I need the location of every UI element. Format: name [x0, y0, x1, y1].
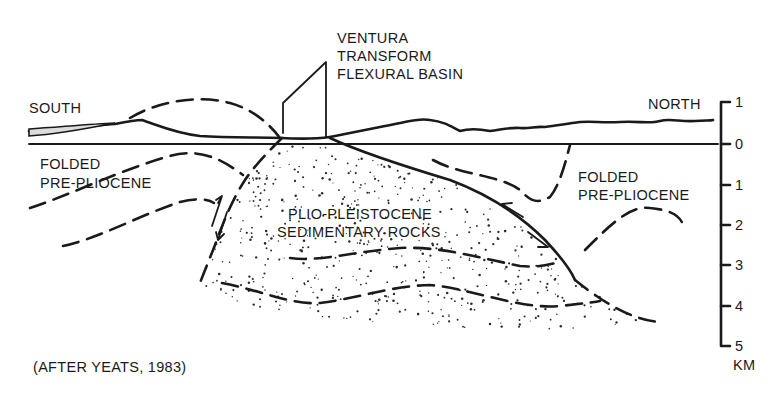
- folded-left-line-2: PRE-PLIOCENE: [40, 175, 152, 191]
- south-fold-lower-2: [63, 199, 214, 246]
- basin-title-line-1: VENTURA: [337, 30, 408, 46]
- scale-label-3: 3: [735, 257, 743, 273]
- basin-title-line-3: FLEXURAL BASIN: [337, 66, 463, 82]
- cross-section-figure: VENTURA TRANSFORM FLEXURAL BASIN SOUTH N…: [0, 0, 777, 395]
- scale-label-4: 4: [735, 298, 743, 314]
- north-anticline: [585, 208, 683, 250]
- depth-scale-bar: 1 0 1 2 3 4 5 KM: [721, 94, 755, 373]
- basin-horizon-upper: [290, 248, 560, 267]
- folded-right-line-2: PRE-PLIOCENE: [578, 187, 690, 203]
- south-anticline-upper: [130, 99, 280, 138]
- basin-horizon-lower: [222, 283, 600, 306]
- scale-unit-label: KM: [733, 357, 755, 373]
- folded-right-line-1: FOLDED: [578, 169, 639, 185]
- north-fault-dashed: [575, 280, 660, 322]
- basin-title-line-2: TRANSFORM: [337, 48, 432, 64]
- scale-label-up-1: 1: [735, 94, 743, 110]
- folded-left-line-1: FOLDED: [40, 156, 101, 172]
- north-syncline: [433, 145, 570, 201]
- scale-label-5: 5: [735, 338, 743, 354]
- south-fault-arrow-up: [212, 196, 222, 226]
- cross-section-drawing: VENTURA TRANSFORM FLEXURAL BASIN SOUTH N…: [0, 0, 777, 395]
- north-fault-arrow-up: [502, 203, 523, 217]
- topography-north: [330, 119, 713, 137]
- scale-label-1: 1: [735, 177, 743, 193]
- south-label: SOUTH: [29, 100, 81, 116]
- basin-marker: [283, 62, 326, 137]
- north-label: NORTH: [648, 96, 701, 112]
- scale-label-0: 0: [735, 136, 743, 152]
- basin-fill-line-2: SEDIMENTARY ROCKS: [277, 224, 441, 240]
- citation: (AFTER YEATS, 1983): [33, 359, 186, 375]
- scale-label-2: 2: [735, 217, 743, 233]
- south-fault-dashed: [200, 138, 282, 283]
- coastal-sediment-wedge: [29, 123, 115, 136]
- basin-fill-line-1: PLIO-PLEISTOCENE: [288, 206, 432, 222]
